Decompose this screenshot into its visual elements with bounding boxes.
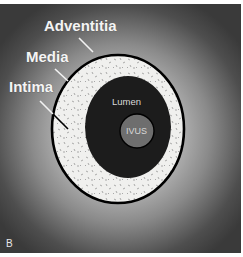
adventitia-label: Adventitia bbox=[44, 17, 117, 34]
intima-leader-line-light bbox=[40, 101, 53, 114]
lumen-label: Lumen bbox=[112, 96, 141, 107]
intima-label: Intima bbox=[9, 78, 54, 95]
media-label: Media bbox=[26, 48, 69, 65]
ivus-diagram: Adventitia Media Intima Lumen IVUS B bbox=[0, 0, 243, 257]
adventitia-leader-line bbox=[79, 38, 93, 52]
ivus-label: IVUS bbox=[126, 126, 147, 136]
panel-letter: B bbox=[6, 238, 13, 249]
media-leader-line bbox=[55, 69, 68, 81]
